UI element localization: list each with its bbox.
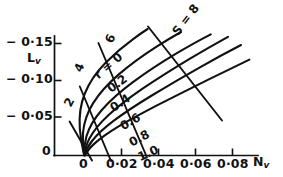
y-tick-label-0.10: − 0·10 (6, 73, 53, 86)
y-axis-ticks (55, 44, 62, 118)
x-axis-title-subscript: v (263, 160, 269, 170)
x-tick-label-0.08: 0·08 (217, 158, 249, 171)
y-axis-title-main: L (27, 50, 35, 65)
y-tick-label-0: 0 (42, 145, 51, 158)
x-axis-title-main: N (253, 154, 263, 169)
x-tick-label-0.06: 0·06 (180, 158, 212, 171)
y-tick-label-0.15: − 0·15 (6, 36, 53, 49)
chart-figure: − 0·15 − 0·10 − 0·05 0 Lv 0 0·02 0·04 0·… (0, 0, 283, 177)
curve-r-0.6 (85, 37, 228, 156)
x-tick-label-0.02: 0·02 (106, 158, 138, 171)
y-axis-title: Lv (27, 52, 41, 66)
x-tick-label-0: 0 (79, 158, 88, 171)
s-line-8 (148, 27, 222, 121)
y-tick-label-0.05: − 0·05 (6, 110, 53, 123)
y-axis-title-subscript: v (35, 56, 41, 66)
x-axis-title: Nv (253, 156, 269, 170)
